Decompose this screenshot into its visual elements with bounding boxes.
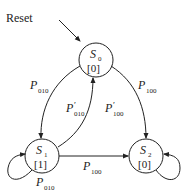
transition-s1-s1-sub: 010	[44, 184, 55, 192]
transition-s0-s1-sub: 010	[38, 87, 49, 95]
transition-s0-s2-label: P	[137, 78, 146, 92]
transition-s0-s1-label: P	[29, 78, 38, 92]
state-s0: S 0 [0]	[79, 43, 113, 77]
transition-s1-s0-sub: 010	[74, 110, 85, 118]
state-s2-output: [0]	[138, 158, 151, 170]
state-s0-name: S	[90, 47, 96, 61]
state-s0-output: [0]	[87, 62, 100, 74]
state-diagram: Reset S 0 [0] S 1 [1] S 2 [0] P 010 P ′ …	[0, 0, 188, 194]
state-s1: S 1 [1]	[25, 139, 59, 173]
transition-s1-s0-prime: ′	[74, 100, 76, 110]
transition-s0-s0-label: P	[104, 101, 113, 115]
reset-arrow	[59, 20, 80, 41]
transition-s0-s0-prime: ′	[113, 100, 115, 110]
state-s2: S 2 [0]	[129, 139, 163, 173]
transition-s1-s0-label: P	[65, 101, 74, 115]
transition-s0-s2	[111, 66, 146, 138]
transition-s0-s2-sub: 100	[146, 87, 157, 95]
state-s1-output: [1]	[34, 158, 47, 170]
transition-s1-s1-label: P	[35, 175, 44, 189]
transition-s0-s0-sub: 100	[113, 110, 124, 118]
transition-s1-s2-sub: 100	[91, 168, 102, 176]
state-s1-name: S	[36, 143, 42, 157]
transition-s1-s2-label: P	[82, 159, 91, 173]
reset-label: Reset	[6, 11, 33, 25]
state-s2-name: S	[140, 143, 146, 157]
